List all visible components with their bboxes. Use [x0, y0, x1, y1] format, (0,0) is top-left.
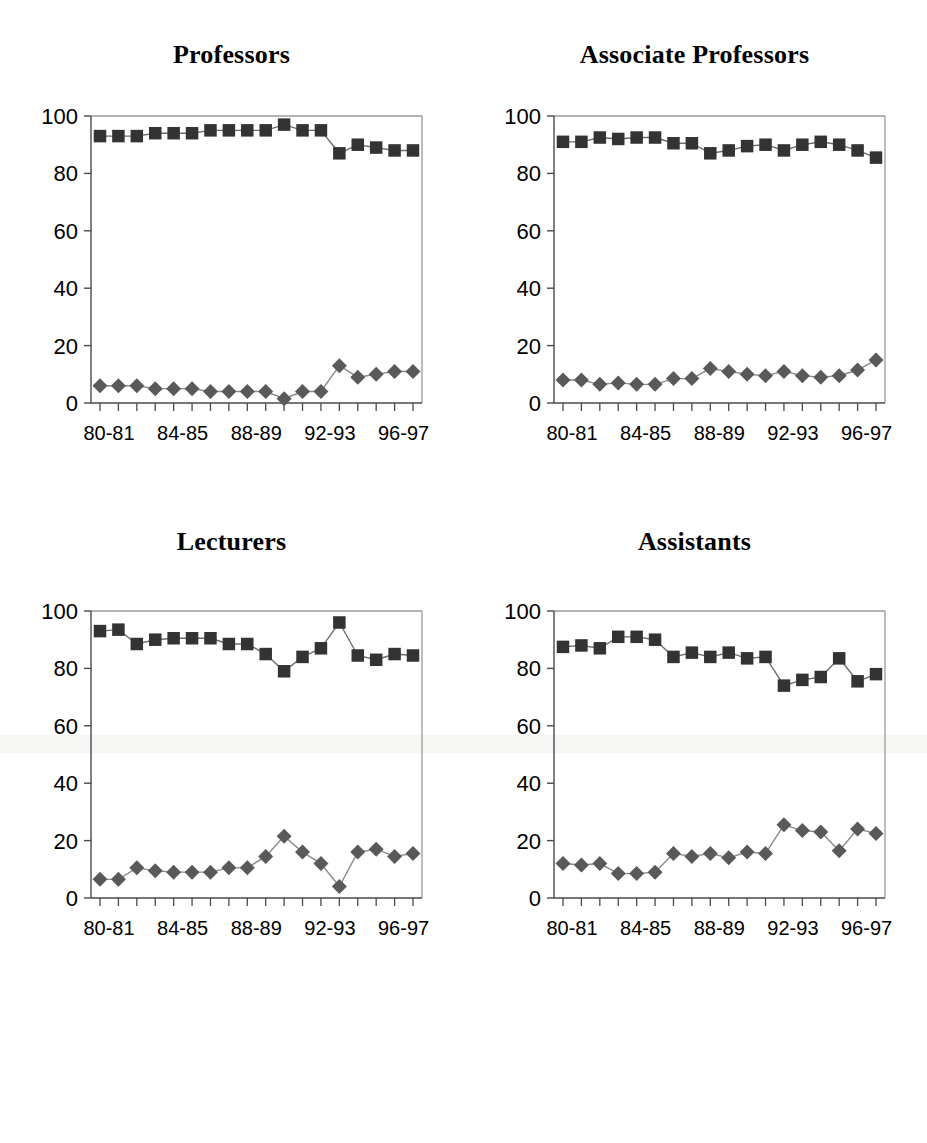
svg-text:80-81: 80-81 [546, 917, 597, 939]
svg-text:100: 100 [41, 104, 78, 129]
legend-area: Legend % Women % Men [0, 975, 927, 1105]
svg-text:92-93: 92-93 [304, 917, 355, 939]
svg-text:80: 80 [54, 161, 78, 186]
svg-text:88-89: 88-89 [694, 917, 745, 939]
svg-text:80-81: 80-81 [83, 422, 134, 444]
svg-text:40: 40 [517, 276, 541, 301]
chart-panel-assistants: Assistants 02040608010080-8184-8588-8992… [463, 495, 926, 990]
svg-text:96-97: 96-97 [841, 422, 892, 444]
svg-text:0: 0 [529, 886, 541, 911]
svg-text:40: 40 [54, 771, 78, 796]
svg-text:84-85: 84-85 [620, 422, 671, 444]
svg-text:100: 100 [504, 104, 541, 129]
chart-panel-professors: Professors 02040608010080-8184-8588-8992… [0, 0, 463, 495]
svg-text:20: 20 [517, 334, 541, 359]
svg-text:80: 80 [517, 656, 541, 681]
svg-text:88-89: 88-89 [231, 917, 282, 939]
svg-text:60: 60 [517, 714, 541, 739]
plot-lecturers: 02040608010080-8184-8588-8992-9396-97 [0, 495, 463, 990]
svg-text:40: 40 [54, 276, 78, 301]
svg-text:60: 60 [54, 714, 78, 739]
svg-text:60: 60 [517, 219, 541, 244]
plot-assistants: 02040608010080-8184-8588-8992-9396-97 [463, 495, 926, 990]
svg-text:92-93: 92-93 [767, 422, 818, 444]
svg-text:92-93: 92-93 [767, 917, 818, 939]
chart-grid: Professors 02040608010080-8184-8588-8992… [0, 0, 927, 990]
svg-text:100: 100 [504, 599, 541, 624]
chart-panel-lecturers: Lecturers 02040608010080-8184-8588-8992-… [0, 495, 463, 990]
svg-text:40: 40 [517, 771, 541, 796]
svg-text:96-97: 96-97 [378, 422, 429, 444]
svg-text:20: 20 [517, 829, 541, 854]
svg-text:80: 80 [517, 161, 541, 186]
plot-professors: 02040608010080-8184-8588-8992-9396-97 [0, 0, 463, 495]
svg-text:84-85: 84-85 [157, 917, 208, 939]
svg-text:92-93: 92-93 [304, 422, 355, 444]
svg-text:0: 0 [66, 391, 78, 416]
plot-associate-professors: 02040608010080-8184-8588-8992-9396-97 [463, 0, 926, 495]
svg-text:88-89: 88-89 [231, 422, 282, 444]
svg-text:84-85: 84-85 [620, 917, 671, 939]
svg-text:88-89: 88-89 [694, 422, 745, 444]
svg-text:80-81: 80-81 [546, 422, 597, 444]
svg-text:96-97: 96-97 [841, 917, 892, 939]
svg-text:100: 100 [41, 599, 78, 624]
svg-text:0: 0 [529, 391, 541, 416]
svg-text:80: 80 [54, 656, 78, 681]
svg-text:20: 20 [54, 829, 78, 854]
svg-text:84-85: 84-85 [157, 422, 208, 444]
svg-text:60: 60 [54, 219, 78, 244]
svg-text:0: 0 [66, 886, 78, 911]
svg-text:96-97: 96-97 [378, 917, 429, 939]
chart-panel-associate-professors: Associate Professors 02040608010080-8184… [463, 0, 926, 495]
svg-text:20: 20 [54, 334, 78, 359]
svg-text:80-81: 80-81 [83, 917, 134, 939]
